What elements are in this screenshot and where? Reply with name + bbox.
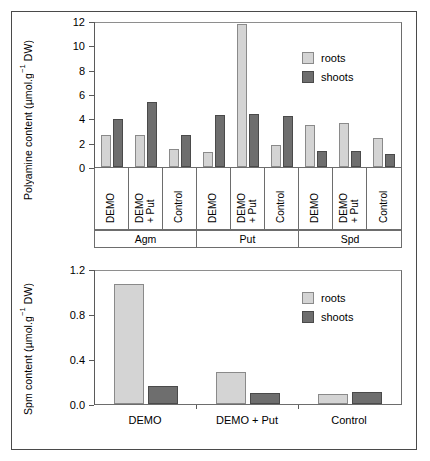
treatment-label: DEMO bbox=[299, 171, 332, 223]
legend-label-shoots: shoots bbox=[321, 72, 353, 83]
x-axis-tick-label: Control bbox=[298, 414, 400, 426]
bar-shoots bbox=[148, 386, 179, 404]
x-axis-tick-label: DEMO + Put bbox=[196, 414, 298, 426]
legend-label-roots: roots bbox=[321, 53, 345, 64]
top-chart-group-band: AgmPutSpd bbox=[94, 230, 402, 248]
treatment-label: DEMO bbox=[197, 171, 230, 223]
bar-shoots bbox=[317, 151, 327, 167]
top-chart-legend: roots shoots bbox=[302, 52, 353, 90]
legend-label-roots: roots bbox=[321, 293, 345, 304]
y-axis-tick bbox=[89, 95, 94, 96]
bar-roots bbox=[339, 123, 349, 167]
bar-shoots bbox=[181, 135, 191, 167]
y-axis-tick-label: 10 bbox=[14, 40, 85, 52]
figure-root: Polyamine content (µmol.g−1 DW) 12108642… bbox=[0, 0, 430, 461]
bar-roots bbox=[216, 372, 247, 404]
legend-entry-roots: roots bbox=[302, 52, 353, 64]
bar-roots bbox=[101, 135, 111, 167]
y-axis-tick bbox=[89, 46, 94, 47]
top-chart-bars bbox=[95, 23, 401, 167]
bar-shoots bbox=[250, 393, 281, 404]
polyamine-group-label: Agm bbox=[95, 231, 197, 247]
treatment-label: DEMO + Put bbox=[231, 171, 264, 223]
top-chart-plot-area bbox=[94, 22, 402, 168]
bar-roots bbox=[237, 24, 247, 167]
y-axis-tick-label: 6 bbox=[14, 89, 85, 101]
treatment-label: DEMO + Put bbox=[129, 171, 162, 223]
y-axis-tick bbox=[89, 144, 94, 145]
bar-roots bbox=[318, 394, 349, 404]
top-chart-y-axis bbox=[94, 22, 95, 168]
bar-roots bbox=[169, 149, 179, 167]
legend-swatch-roots-icon bbox=[302, 52, 314, 64]
y-axis-tick-label: 0.8 bbox=[14, 309, 85, 321]
y-axis-tick-label: 0.0 bbox=[14, 399, 85, 411]
treatment-label: DEMO bbox=[95, 171, 128, 223]
y-axis-tick-label: 0 bbox=[14, 162, 85, 174]
y-axis-tick-label: 4 bbox=[14, 113, 85, 125]
bar-shoots bbox=[352, 392, 383, 404]
bar-shoots bbox=[147, 102, 157, 167]
bar-roots bbox=[373, 138, 383, 167]
bottom-chart-bars bbox=[95, 271, 401, 404]
bottom-chart-plot-area bbox=[94, 270, 402, 405]
legend-swatch-shoots-icon bbox=[302, 311, 314, 323]
treatment-cell: Control bbox=[163, 168, 197, 229]
chart-polyamine-content: Polyamine content (µmol.g−1 DW) 12108642… bbox=[14, 14, 414, 246]
bar-shoots bbox=[249, 114, 259, 167]
x-axis-tick bbox=[298, 405, 299, 409]
top-chart-treatment-band: DEMODEMO + PutControlDEMODEMO + PutContr… bbox=[94, 168, 402, 230]
treatment-cell: DEMO bbox=[299, 168, 333, 229]
polyamine-group-label: Spd bbox=[299, 231, 401, 247]
y-axis-tick bbox=[89, 360, 94, 361]
x-axis-tick bbox=[196, 405, 197, 409]
bar-shoots bbox=[113, 119, 123, 167]
treatment-cell: DEMO + Put bbox=[333, 168, 367, 229]
bar-shoots bbox=[351, 151, 361, 167]
y-axis-tick-label: 2 bbox=[14, 138, 85, 150]
y-axis-tick-label: 12 bbox=[14, 16, 85, 28]
y-axis-tick bbox=[89, 315, 94, 316]
y-axis-tick-label: 1.2 bbox=[14, 264, 85, 276]
y-axis-tick bbox=[89, 405, 94, 406]
treatment-cell: DEMO bbox=[95, 168, 129, 229]
legend-label-shoots: shoots bbox=[321, 312, 353, 323]
chart-spm-content: Spm content (µmol.g−1 DW) 1.20.80.40.0 r… bbox=[14, 262, 414, 448]
legend-entry-roots: roots bbox=[302, 292, 353, 304]
treatment-label: Control bbox=[163, 171, 196, 223]
treatment-label: Control bbox=[367, 171, 401, 223]
treatment-cell: DEMO bbox=[197, 168, 231, 229]
y-axis-tick bbox=[89, 119, 94, 120]
legend-entry-shoots: shoots bbox=[302, 71, 353, 83]
treatment-label: Control bbox=[265, 171, 298, 223]
treatment-cell: DEMO + Put bbox=[231, 168, 265, 229]
bar-shoots bbox=[385, 154, 395, 167]
y-axis-tick bbox=[89, 270, 94, 271]
legend-entry-shoots: shoots bbox=[302, 311, 353, 323]
bar-roots bbox=[271, 145, 281, 167]
treatment-label: DEMO + Put bbox=[333, 171, 366, 223]
polyamine-group-label: Put bbox=[197, 231, 299, 247]
y-axis-tick-label: 0.4 bbox=[14, 354, 85, 366]
bar-roots bbox=[305, 125, 315, 167]
treatment-cell: Control bbox=[265, 168, 299, 229]
bar-roots bbox=[114, 284, 145, 404]
y-axis-tick bbox=[89, 71, 94, 72]
x-axis-tick-label: DEMO bbox=[94, 414, 196, 426]
y-axis-tick-label: 8 bbox=[14, 65, 85, 77]
bar-shoots bbox=[283, 116, 293, 167]
bottom-chart-legend: roots shoots bbox=[302, 292, 353, 330]
bar-roots bbox=[135, 135, 145, 167]
legend-swatch-shoots-icon bbox=[302, 71, 314, 83]
treatment-cell: Control bbox=[367, 168, 401, 229]
treatment-cell: DEMO + Put bbox=[129, 168, 163, 229]
bar-shoots bbox=[215, 115, 225, 167]
bottom-chart-y-axis bbox=[94, 270, 95, 405]
legend-swatch-roots-icon bbox=[302, 292, 314, 304]
y-axis-tick bbox=[89, 22, 94, 23]
bar-roots bbox=[203, 152, 213, 167]
